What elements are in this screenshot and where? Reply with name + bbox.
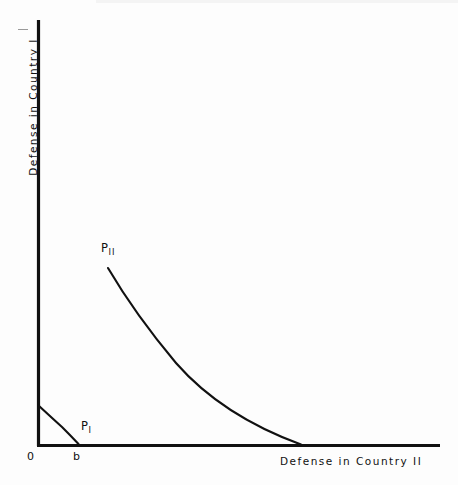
origin-label: 0 bbox=[27, 450, 34, 463]
curve-label-p1: PI bbox=[81, 419, 92, 435]
curve-p1 bbox=[38, 405, 79, 444]
curve-p2 bbox=[108, 268, 301, 445]
x-axis-label: Defense in Country II bbox=[280, 455, 422, 467]
curve-label-p1-subscript: I bbox=[88, 425, 92, 435]
plot-svg bbox=[0, 0, 458, 485]
curve-label-p2-subscript: II bbox=[108, 247, 115, 257]
figure-canvas: Defense in Country I Defense in Country … bbox=[0, 0, 458, 485]
curve-label-p1-base: P bbox=[81, 419, 88, 433]
x-tick-label-b: b bbox=[73, 450, 80, 463]
y-axis-label: Defense in Country I bbox=[27, 22, 39, 192]
curve-label-p2: PII bbox=[101, 241, 115, 257]
curve-label-p2-base: P bbox=[101, 241, 108, 255]
